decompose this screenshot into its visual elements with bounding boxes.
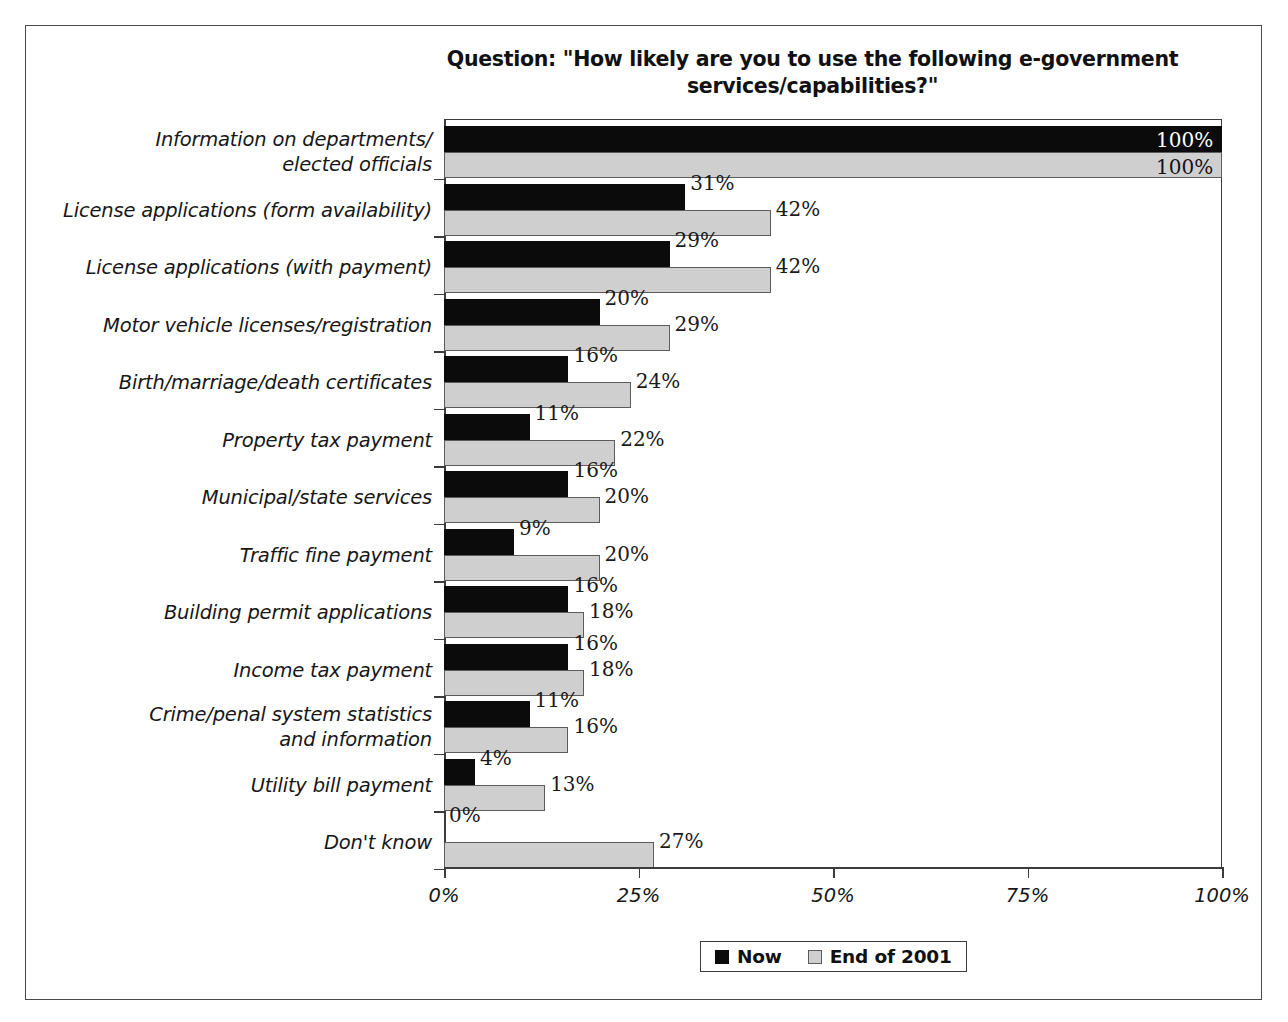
plot-top-rule — [444, 119, 1222, 120]
category-label: Traffic fine payment — [40, 543, 432, 568]
bar-now — [444, 126, 1222, 152]
category-label: Utility bill payment — [40, 773, 432, 798]
bar-value-label: 11% — [535, 690, 579, 710]
category-label: Information on departments/ elected offi… — [40, 127, 432, 177]
category-label: Motor vehicle licenses/registration — [40, 313, 432, 338]
y-axis-tick — [434, 409, 444, 411]
bar-value-label: 100% — [1156, 157, 1213, 177]
bar-value-label: 16% — [573, 716, 617, 736]
x-axis-tick-label: 0% — [429, 884, 460, 907]
bar-now — [444, 644, 568, 670]
chart-title: Question: "How likely are you to use the… — [440, 46, 1185, 100]
bar-value-label: 9% — [519, 518, 551, 538]
bar-value-label: 22% — [620, 429, 664, 449]
bar-now — [444, 586, 568, 612]
x-axis-tick-label: 50% — [811, 884, 854, 907]
chart-figure: Question: "How likely are you to use the… — [0, 0, 1288, 1022]
bar-value-label: 16% — [573, 345, 617, 365]
bar-value-label: 4% — [480, 748, 512, 768]
legend-label-end-of-2001: End of 2001 — [830, 946, 952, 967]
category-label: Municipal/state services — [40, 485, 432, 510]
bar-value-label: 29% — [675, 230, 719, 250]
bar-value-label: 27% — [659, 831, 703, 851]
bar-now — [444, 356, 568, 382]
x-axis-tick — [639, 867, 641, 878]
y-axis-tick — [434, 179, 444, 181]
bar-value-label: 20% — [605, 486, 649, 506]
x-axis-tick-label: 25% — [617, 884, 660, 907]
bar-now — [444, 701, 530, 727]
category-label: License applications (with payment) — [40, 255, 432, 280]
bar-value-label: 42% — [776, 199, 820, 219]
gray-square-icon — [808, 950, 822, 964]
y-axis-tick — [434, 869, 444, 871]
legend-item-now: Now — [715, 946, 782, 967]
bar-value-label: 16% — [573, 575, 617, 595]
category-label: Building permit applications — [40, 600, 432, 625]
bar-end-of-2001 — [444, 325, 670, 351]
bar-value-label: 24% — [636, 371, 680, 391]
bar-value-label: 0% — [449, 805, 481, 825]
category-label: Crime/penal system statistics and inform… — [40, 702, 432, 752]
x-axis-tick — [833, 867, 835, 878]
bar-now — [444, 184, 685, 210]
bar-value-label: 31% — [690, 173, 734, 193]
bar-value-label: 16% — [573, 460, 617, 480]
category-label: Income tax payment — [40, 658, 432, 683]
bar-value-label: 13% — [550, 774, 594, 794]
category-label: License applications (form availability) — [40, 198, 432, 223]
y-axis-tick — [434, 639, 444, 641]
bar-value-label: 11% — [535, 403, 579, 423]
bar-value-label: 29% — [675, 314, 719, 334]
black-square-icon — [715, 950, 729, 964]
y-axis-tick — [434, 581, 444, 583]
bar-now — [444, 299, 600, 325]
bar-value-label: 16% — [573, 633, 617, 653]
bar-value-label: 42% — [776, 256, 820, 276]
y-axis-tick — [434, 236, 444, 238]
x-axis-tick — [1028, 867, 1030, 878]
plot-area: 100%100%31%42%29%42%20%29%16%24%11%22%16… — [444, 119, 1222, 867]
x-axis-tick-label: 75% — [1006, 884, 1049, 907]
x-axis-tick — [1222, 867, 1224, 878]
y-axis-tick — [434, 351, 444, 353]
y-axis-tick — [434, 754, 444, 756]
category-label: Don't know — [40, 830, 432, 855]
plot-right-rule — [1221, 119, 1222, 867]
bar-now — [444, 529, 514, 555]
y-axis-tick — [434, 811, 444, 813]
legend-item-end-of-2001: End of 2001 — [808, 946, 952, 967]
bar-end-of-2001 — [444, 210, 771, 236]
x-axis-tick-label: 100% — [1194, 884, 1250, 907]
legend-label-now: Now — [737, 946, 782, 967]
category-label: Property tax payment — [40, 428, 432, 453]
bar-now — [444, 471, 568, 497]
y-axis-tick — [434, 524, 444, 526]
y-axis-tick — [434, 466, 444, 468]
chart-legend: Now End of 2001 — [700, 941, 967, 972]
y-axis-tick — [434, 294, 444, 296]
bar-now — [444, 414, 530, 440]
bar-now — [444, 241, 670, 267]
y-axis-tick — [434, 696, 444, 698]
bar-end-of-2001 — [444, 152, 1222, 178]
bar-value-label: 18% — [589, 601, 633, 621]
bar-value-label: 20% — [605, 544, 649, 564]
bar-end-of-2001 — [444, 612, 584, 638]
bar-value-label: 100% — [1156, 130, 1213, 150]
bar-value-label: 18% — [589, 659, 633, 679]
bar-now — [444, 759, 475, 785]
bar-value-label: 20% — [605, 288, 649, 308]
x-axis-tick — [444, 867, 446, 878]
bar-end-of-2001 — [444, 842, 654, 868]
category-label: Birth/marriage/death certificates — [40, 370, 432, 395]
